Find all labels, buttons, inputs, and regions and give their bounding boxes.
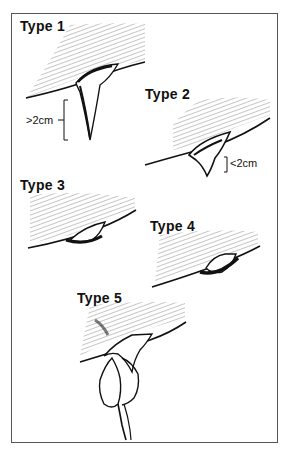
type3-label: Type 3 — [20, 177, 65, 193]
diagram-artwork — [0, 0, 290, 452]
type4-label: Type 4 — [150, 218, 195, 234]
type4-drawing — [152, 231, 260, 287]
type2-measurement: <2cm — [230, 157, 257, 169]
type1-measurement: >2cm — [26, 114, 53, 126]
type5-drawing — [80, 302, 186, 440]
type5-label: Type 5 — [77, 290, 122, 306]
type3-drawing — [28, 193, 136, 248]
type1-label: Type 1 — [20, 18, 65, 34]
type2-label: Type 2 — [145, 86, 190, 102]
